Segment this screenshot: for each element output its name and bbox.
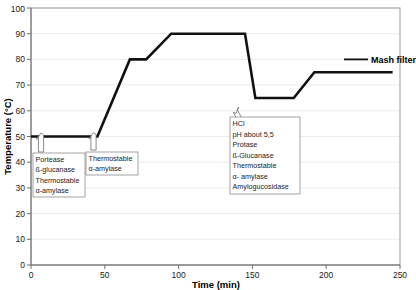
y-tick-label: 20: [16, 209, 26, 219]
chart-canvas: 0 10 20 30 40 50 60 70 80 90 100 Tempera…: [0, 0, 416, 290]
annotation-line: Thermostable: [36, 176, 80, 185]
annotation-line: HCl: [233, 119, 245, 128]
annotation-box-3: HCl pH about 5,5 Protase ß-Glucanase The…: [230, 117, 300, 194]
y-tick-label: 80: [16, 54, 26, 64]
x-tick-label: 250: [393, 270, 407, 280]
annotation-line: α-amylase: [36, 186, 69, 195]
annotation-box-1: Portease ß-glucanase Thermostable α-amyl…: [33, 153, 85, 197]
x-tick-label: 150: [245, 270, 259, 280]
annotation-box-2: Thermostable α-amylase: [86, 152, 138, 175]
annotation-line: Portease: [36, 155, 65, 164]
annotation-line: α- amylase: [233, 172, 268, 181]
y-tick-label: 70: [16, 80, 26, 90]
annotation-line: pH about 5,5: [233, 130, 274, 139]
y-axis: [27, 8, 31, 265]
y-tick-label: 100: [11, 4, 25, 14]
x-tick-label: 200: [319, 270, 333, 280]
annotation-line: ß-glucanase: [36, 165, 76, 174]
x-tick-label: 0: [29, 270, 34, 280]
annotation-line: ß-Glucanase: [233, 151, 274, 160]
y-tick-label: 40: [16, 157, 26, 167]
y-axis-title: Temperature (°C): [2, 98, 13, 174]
y-tick-label: 50: [16, 132, 26, 142]
y-tick-label: 90: [16, 29, 26, 39]
x-tick-label: 50: [100, 270, 110, 280]
x-axis-title: Time (min): [192, 279, 240, 290]
x-tick-label: 100: [172, 270, 186, 280]
annotation-line: Thermostable: [233, 161, 277, 170]
mash-filter-label: Mash filter: [371, 55, 416, 65]
y-tick-label: 30: [16, 183, 26, 193]
annotation-line: α-amylase: [89, 164, 122, 173]
annotation-line: Protase: [233, 140, 258, 149]
annotation-line: Thermostable: [89, 154, 133, 163]
temperature-profile-chart: 0 10 20 30 40 50 60 70 80 90 100 Tempera…: [0, 0, 416, 290]
x-axis: [31, 265, 400, 269]
annotation-line: Amylogucosidase: [233, 182, 289, 191]
y-tick-label: 60: [16, 106, 26, 116]
y-tick-label: 10: [16, 234, 26, 244]
y-tick-label: 0: [20, 260, 25, 270]
